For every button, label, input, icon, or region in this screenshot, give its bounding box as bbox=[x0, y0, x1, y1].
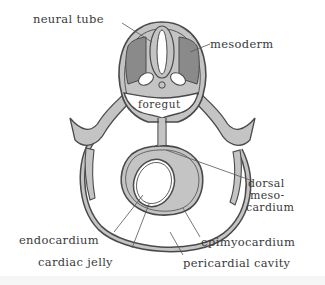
diagram-canvas: neural tube mesoderm foregut dorsal meso… bbox=[0, 0, 325, 285]
label-mesoderm: mesoderm bbox=[210, 37, 274, 51]
embryo-cross-section-diagram: neural tube mesoderm foregut dorsal meso… bbox=[0, 0, 325, 285]
label-epimyocardium: epimyocardium bbox=[201, 235, 295, 249]
neural-canal bbox=[157, 30, 167, 74]
label-neural-tube: neural tube bbox=[33, 12, 104, 26]
notochord bbox=[159, 82, 165, 88]
label-dorsal-mesocardium-3: cardium bbox=[246, 201, 294, 214]
bottom-margin bbox=[0, 276, 325, 285]
label-cardiac-jelly: cardiac jelly bbox=[38, 255, 113, 269]
label-foregut: foregut bbox=[138, 98, 181, 110]
heart-tube bbox=[121, 146, 203, 215]
label-pericardial-cavity: pericardial cavity bbox=[183, 256, 291, 270]
label-endocardium: endocardium bbox=[19, 233, 99, 247]
